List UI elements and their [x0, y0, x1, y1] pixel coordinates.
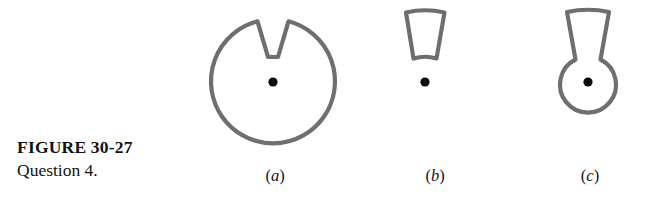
point-charge-dot [268, 77, 277, 86]
panel-label-b-letter: b [431, 166, 439, 185]
point-charge-dot [583, 77, 592, 86]
figure-panel-b: (b) [380, 0, 490, 205]
panel-label-b-close: ) [439, 166, 445, 185]
figure-container: FIGURE 30-27 Question 4. (a) (b) [0, 0, 658, 205]
funnel-circle-outline [560, 10, 616, 113]
panel-label-c-close: ) [594, 166, 600, 185]
panel-label-a-close: ) [279, 166, 285, 185]
figure-caption-title: FIGURE 30-27 [17, 137, 177, 158]
figure-panel-c: (c) [530, 0, 650, 205]
point-charge-dot [420, 77, 429, 86]
panel-label-c-letter: c [586, 166, 593, 185]
figure-caption: FIGURE 30-27 Question 4. [17, 137, 177, 182]
panel-label-c: (c) [530, 166, 650, 186]
shape-wedge-trapezoid [380, 0, 490, 160]
figure-panel-a: (a) [180, 0, 370, 205]
panel-label-a: (a) [180, 166, 370, 186]
figure-caption-subtitle: Question 4. [17, 159, 177, 182]
shape-circle-with-v-notch [180, 0, 370, 160]
panel-label-a-letter: a [271, 166, 279, 185]
panel-label-b: (b) [380, 166, 490, 186]
shape-circle-with-funnel [530, 0, 650, 160]
wedge-outline [406, 10, 445, 58]
